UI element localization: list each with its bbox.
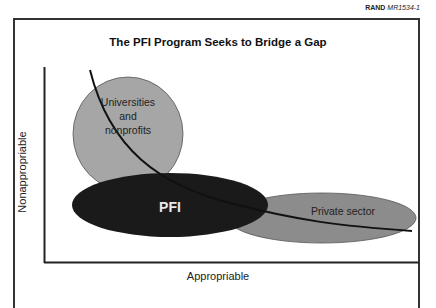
x-axis-label: Appropriable — [0, 270, 436, 282]
y-axis-label: Nonappropriable — [16, 131, 28, 212]
universities-label-line-2: and — [119, 110, 137, 122]
private-sector-label: Private sector — [311, 205, 376, 217]
universities-label-line-3: nonprofits — [105, 124, 151, 136]
universities-label-line-1: Universities — [101, 96, 155, 108]
pfi-label: PFI — [159, 199, 181, 215]
